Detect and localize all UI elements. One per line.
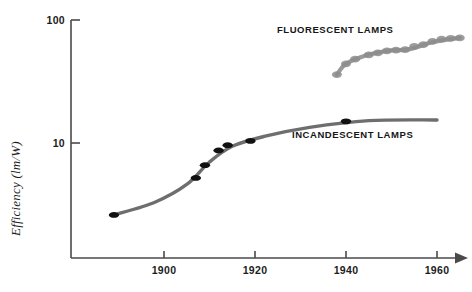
series-label-fluorescent: FLUORESCENT LAMPS — [277, 24, 394, 35]
x-axis-tick-label: 1960 — [425, 264, 450, 276]
chart-axes — [71, 20, 468, 264]
data-point-marker — [332, 71, 342, 78]
data-point-marker — [350, 56, 360, 63]
y-axis-tick-10: 10 — [39, 137, 65, 149]
series-label-incandescent: INCANDESCENT LAMPS — [292, 129, 413, 140]
data-point-marker — [400, 46, 410, 53]
x-axis-tick-label: 1920 — [243, 264, 268, 276]
efficiency-chart-figure: 100 10 Efficiency (lm/W) 190019201940196… — [0, 0, 472, 292]
y-axis-title: Efficiency (lm/W) — [8, 96, 24, 236]
data-point-marker — [213, 148, 223, 154]
x-axis-arrow-icon — [455, 253, 468, 264]
data-point-marker — [446, 35, 456, 42]
chart-series — [109, 35, 465, 218]
data-point-marker — [191, 175, 201, 181]
data-point-marker — [391, 47, 401, 54]
data-point-marker — [245, 138, 255, 144]
y-axis-tick-100: 100 — [39, 14, 65, 26]
x-axis-tick-label: 1940 — [334, 264, 359, 276]
data-point-marker — [341, 60, 351, 67]
x-axis-tick-label: 1900 — [152, 264, 177, 276]
data-point-marker — [109, 212, 119, 218]
data-point-marker — [409, 43, 419, 50]
chart-plot-area — [0, 0, 472, 292]
data-point-marker — [427, 38, 437, 45]
data-point-marker — [437, 36, 447, 43]
data-point-marker — [455, 35, 465, 42]
data-point-marker — [382, 48, 392, 55]
data-point-marker — [200, 162, 210, 168]
data-point-marker — [418, 41, 428, 48]
data-point-marker — [364, 52, 374, 59]
data-point-marker — [223, 142, 233, 148]
data-point-marker — [373, 50, 383, 57]
data-point-marker — [341, 118, 351, 124]
